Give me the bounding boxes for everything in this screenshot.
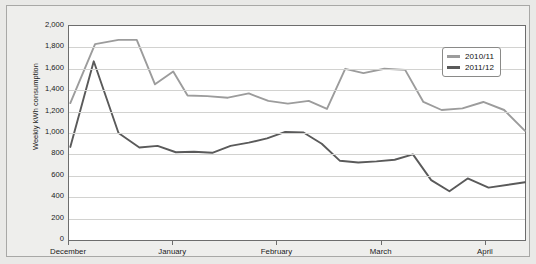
x-tick-label: March [346, 247, 416, 256]
legend-label: 2010/11 [465, 52, 494, 61]
y-tick-label: 200 [18, 214, 64, 222]
gridline [69, 176, 525, 177]
gridline [69, 219, 525, 220]
y-tick-label: 400 [18, 192, 64, 200]
y-tick-label: 800 [18, 149, 64, 157]
x-tick-mark [68, 240, 69, 245]
y-tick-label: 2,000 [18, 21, 64, 29]
legend-line-swatch-icon [447, 66, 460, 68]
x-tick-label: April [450, 247, 520, 256]
y-tick-label: 1,200 [18, 107, 64, 115]
x-tick-label: January [137, 247, 207, 256]
y-axis-ticks: 2,0001,8001,6001,4001,2001,0008006004002… [14, 25, 64, 239]
gridline [69, 197, 525, 198]
y-tick-label: 1,800 [18, 42, 64, 50]
x-tick-label: December [33, 247, 103, 256]
legend-line-swatch-icon [447, 55, 460, 57]
y-tick-label: 600 [18, 171, 64, 179]
x-tick-mark [276, 240, 277, 245]
gridline [69, 90, 525, 91]
x-axis-ticks: DecemberJanuaryFebruaryMarchApril [68, 240, 526, 262]
gridline [69, 112, 525, 113]
y-tick-label: 0 [18, 235, 64, 243]
legend-item[interactable]: 2011/12 [447, 62, 494, 73]
y-tick-label: 1,400 [18, 85, 64, 93]
series-line-2011-12 [70, 61, 525, 191]
legend-item[interactable]: 2010/11 [447, 51, 494, 62]
gridline [69, 154, 525, 155]
gridline [69, 133, 525, 134]
legend-label: 2011/12 [465, 63, 494, 72]
y-tick-label: 1,600 [18, 64, 64, 72]
x-tick-mark [485, 240, 486, 245]
figure-frame: Weekly kWh consumption 2,0001,8001,6001,… [6, 5, 530, 257]
chart-figure: Weekly kWh consumption 2,0001,8001,6001,… [0, 0, 536, 264]
chart-legend: 2010/112011/12 [442, 47, 501, 77]
x-tick-mark [381, 240, 382, 245]
x-tick-label: February [241, 247, 311, 256]
x-tick-mark [172, 240, 173, 245]
y-tick-label: 1,000 [18, 128, 64, 136]
